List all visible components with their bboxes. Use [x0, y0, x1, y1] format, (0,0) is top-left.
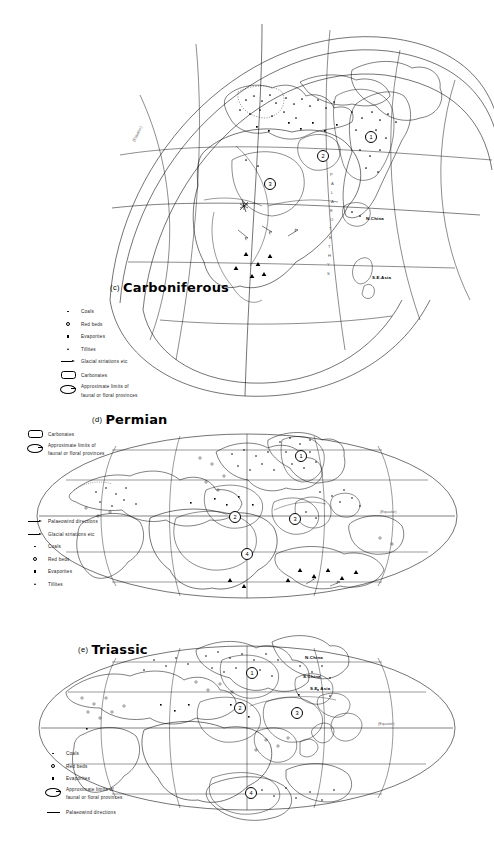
province-marker-2-permian: 2 — [229, 511, 241, 523]
legend-label-evaporites-triassic: Evaporites — [66, 776, 90, 781]
tillites-symbol-icon — [55, 348, 81, 350]
legend-label-tillites: Tillites — [81, 347, 96, 352]
red-beds-symbol-icon — [22, 557, 48, 562]
glacial-striation-arrow-icon — [55, 360, 81, 363]
legend-triassic: Coals Red beds Evaporites Approximate li… — [40, 748, 123, 819]
legend-label-palaeowind-permian: Palaeowind directions — [48, 519, 98, 524]
legend-label-glacial-striations-permian: Glacial striations etc — [48, 532, 95, 537]
red-beds-symbol-icon — [40, 764, 66, 769]
legend-label-provinces-line2: faunal or floral provinces — [81, 393, 138, 398]
panel-carboniferous: (c)Carboniferous (Equator) P A L A E O T… — [0, 0, 494, 400]
province-marker-1-carboniferous: 1 — [365, 131, 377, 143]
legend-item-evaporites-triassic: Evaporites — [40, 773, 123, 784]
legend-label-provinces-triassic: Approximate limits of faunal or floral p… — [66, 786, 123, 803]
legend-label-provinces-line1: Approximate limits of — [81, 384, 129, 389]
legend-item-coals: Coals — [55, 306, 138, 317]
panel-letter-triassic: (e) — [78, 645, 88, 654]
legend-label-provinces-permian-line1: Approximate limits of — [48, 443, 96, 448]
panel-name-permian: Permian — [105, 412, 167, 427]
panel-title-triassic: (e)Triassic — [78, 640, 148, 658]
panel-name-carboniferous: Carboniferous — [123, 280, 229, 295]
legend-item-carbonates-permian: Carbonates — [22, 428, 105, 440]
panel-letter-permian: (d) — [92, 415, 102, 424]
palaeowind-arrow-icon — [22, 520, 48, 523]
legend-item-glacial-striations-permian: Glacial striations etc — [22, 529, 98, 540]
province-marker-3-triassic: 3 — [291, 707, 303, 719]
evaporites-symbol-icon — [40, 777, 66, 779]
legend-item-palaeowind-triassic: Palaeowind directions — [40, 807, 123, 818]
legend-item-red-beds-permian: Red beds — [22, 554, 98, 565]
province-limits-symbol-icon — [55, 383, 81, 394]
equator-label-triassic: (Equator) — [378, 721, 395, 726]
legend-item-provinces-permian: Approximate limits of faunal or floral p… — [22, 442, 105, 460]
coals-symbol-icon — [40, 753, 66, 755]
legend-label-coals-triassic: Coals — [66, 751, 79, 756]
legend-label-glacial-striations: Glacial striations etc — [81, 359, 128, 364]
legend-label-provinces-triassic-line2: faunal or floral provinces — [66, 795, 123, 800]
legend-label-coals: Coals — [81, 309, 94, 314]
province-marker-1-triassic: 1 — [246, 667, 258, 679]
legend-permian-bottom: Palaeowind directions Glacial striations… — [22, 516, 98, 591]
legend-label-carbonates: Carbonates — [81, 373, 107, 378]
map-label-n-china-triassic: N.China — [305, 655, 323, 660]
province-marker-2-triassic: 2 — [234, 702, 246, 714]
legend-item-evaporites-permian: Evaporites — [22, 566, 98, 577]
province-marker-4-triassic: 4 — [245, 787, 257, 799]
legend-item-tillites: Tillites — [55, 344, 138, 355]
legend-item-palaeowind-permian: Palaeowind directions — [22, 516, 98, 527]
legend-label-tillites-permian: Tillites — [48, 582, 63, 587]
legend-carboniferous: Coals Red beds Evaporites Tillites Glaci… — [55, 306, 138, 403]
legend-label-coals-permian: Coals — [48, 544, 61, 549]
equator-label-permian: (Equator) — [380, 509, 397, 514]
legend-label-provinces-permian-line2: faunal or floral provinces — [48, 451, 105, 456]
legend-item-carbonates: Carbonates — [55, 369, 138, 382]
legend-permian-top: Carbonates Approximate limits of faunal … — [22, 428, 105, 461]
legend-label-provinces-permian: Approximate limits of faunal or floral p… — [48, 442, 105, 459]
triassic-map-graphic — [0, 620, 494, 862]
legend-label-evaporites: Evaporites — [81, 334, 105, 339]
province-limits-symbol-icon — [40, 786, 66, 797]
map-label-n-china-carboniferous: N.China — [366, 216, 384, 221]
tillites-symbol-icon — [22, 583, 48, 585]
legend-item-red-beds: Red beds — [55, 319, 138, 330]
legend-item-glacial-striations: Glacial striations etc — [55, 356, 138, 367]
legend-label-palaeowind-triassic: Palaeowind directions — [66, 810, 116, 815]
province-marker-2-carboniferous: 2 — [317, 150, 329, 162]
palaeowind-arrow-icon — [40, 812, 66, 813]
evaporites-symbol-icon — [55, 335, 81, 337]
legend-item-evaporites: Evaporites — [55, 331, 138, 342]
legend-label-red-beds: Red beds — [81, 322, 103, 327]
legend-label-carbonates-permian: Carbonates — [48, 432, 74, 437]
panel-title-permian: (d)Permian — [92, 410, 168, 428]
panel-title-carboniferous: (c)Carboniferous — [110, 278, 229, 296]
legend-item-tillites-permian: Tillites — [22, 579, 98, 590]
legend-label-red-beds-triassic: Red beds — [66, 764, 88, 769]
legend-item-coals-triassic: Coals — [40, 748, 123, 759]
map-label-s-china-triassic: S.China — [303, 674, 321, 679]
legend-item-provinces-triassic: Approximate limits of faunal or floral p… — [40, 786, 123, 804]
map-label-se-asia-triassic: S.E. Asia — [310, 686, 330, 691]
panel-triassic: (e)Triassic (Equator) N E O T E T H Y S … — [0, 620, 494, 862]
province-marker-3-permian: 3 — [289, 513, 301, 525]
evaporites-symbol-icon — [22, 570, 48, 572]
panel-letter-carboniferous: (c) — [110, 283, 120, 292]
carbonates-symbol-icon — [55, 371, 81, 378]
legend-label-evaporites-permian: Evaporites — [48, 569, 72, 574]
legend-item-red-beds-triassic: Red beds — [40, 761, 123, 772]
legend-label-provinces-triassic-line1: Approximate limits of — [66, 787, 114, 792]
carbonates-symbol-icon — [22, 430, 48, 437]
red-beds-symbol-icon — [55, 322, 81, 327]
coals-symbol-icon — [22, 546, 48, 548]
province-marker-4-permian: 4 — [241, 548, 253, 560]
legend-label-red-beds-permian: Red beds — [48, 557, 70, 562]
province-marker-3-carboniferous: 3 — [264, 178, 276, 190]
legend-item-coals-permian: Coals — [22, 541, 98, 552]
map-label-se-asia-carboniferous: S.E.Asia — [372, 275, 391, 280]
glacial-striation-arrow-icon — [22, 533, 48, 536]
province-limits-symbol-icon — [22, 442, 48, 453]
panel-permian: (d)Permian Carbonates Approximate limits… — [0, 398, 494, 623]
panel-name-triassic: Triassic — [91, 642, 147, 657]
province-marker-1-permian: 1 — [295, 450, 307, 462]
coals-symbol-icon — [55, 311, 81, 313]
